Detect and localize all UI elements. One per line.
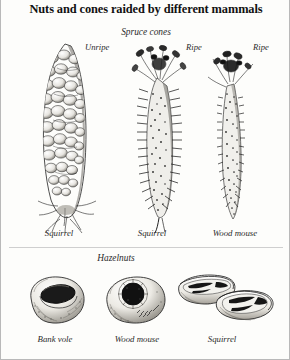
- ripeness-label-unripe: Unripe: [85, 42, 109, 52]
- cone-crown-scales: [131, 45, 187, 82]
- figure-nut-wood-mouse: [97, 272, 173, 330]
- figure-cone-ripe-woodmouse: [203, 46, 263, 232]
- cone-tip-tuft: [208, 51, 253, 87]
- caption-wood-mouse-nut: Wood mouse: [93, 334, 181, 344]
- figure-nut-bank-vole: [17, 272, 93, 330]
- section-heading-spruce-cones: Spruce cones: [96, 27, 196, 37]
- cone-ripe-woodmouse-drawing: [203, 46, 263, 232]
- ripeness-label-ripe-squirrel: Ripe: [186, 42, 202, 52]
- caption-squirrel-unripe-cone: Squirrel: [19, 228, 99, 238]
- section-divider: [9, 247, 283, 248]
- caption-woodmouse-ripe-cone: Wood mouse: [187, 228, 283, 238]
- illustration-plate: Nuts and cones raided by different mamma…: [0, 0, 290, 360]
- cone-ripe-squirrel-drawing: [127, 44, 191, 234]
- cone-unripe-drawing: [27, 38, 105, 234]
- nut-squirrel-drawing: [175, 268, 279, 330]
- page-title: Nuts and cones raided by different mamma…: [1, 2, 290, 17]
- caption-squirrel-ripe-cone: Squirrel: [107, 228, 197, 238]
- half-shell-lower: [216, 291, 273, 320]
- figure-cone-ripe-squirrel: [127, 44, 191, 234]
- caption-squirrel-nut: Squirrel: [177, 334, 267, 344]
- section-heading-hazelnuts: Hazelnuts: [61, 253, 171, 263]
- figure-nut-squirrel: [175, 268, 279, 330]
- nut-wood-mouse-drawing: [97, 272, 173, 330]
- ripeness-label-ripe-woodmouse: Ripe: [253, 42, 269, 52]
- nut-bank-vole-drawing: [17, 272, 93, 330]
- figure-cone-unripe-squirrel: [27, 38, 105, 234]
- caption-bank-vole: Bank vole: [15, 334, 95, 344]
